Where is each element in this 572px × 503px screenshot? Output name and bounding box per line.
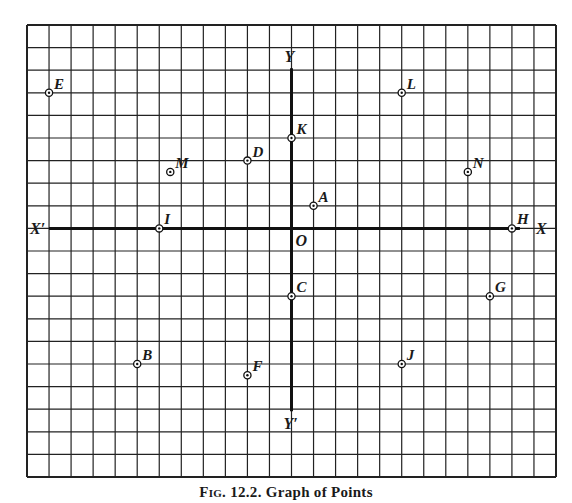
point-dot-icon: [511, 227, 513, 229]
axes: X′ X Y Y′ O: [29, 48, 547, 432]
point-label: J: [406, 347, 415, 363]
point-label: E: [53, 76, 64, 92]
point-label: D: [251, 144, 263, 160]
point-f: F: [244, 358, 263, 379]
point-label: H: [516, 211, 530, 227]
point-label: M: [174, 155, 189, 171]
point-dot-icon: [169, 171, 171, 173]
point-dot-icon: [158, 227, 160, 229]
point-dot-icon: [48, 92, 50, 94]
figure-number: Fig. 12.2.: [199, 484, 262, 500]
point-dot-icon: [401, 363, 403, 365]
point-label: F: [251, 358, 262, 374]
point-dot-icon: [246, 374, 248, 376]
point-label: B: [141, 347, 152, 363]
point-dot-icon: [290, 295, 292, 297]
point-label: K: [296, 121, 308, 137]
figure-title: Graph of Points: [266, 484, 373, 500]
y-negative-label: Y′: [284, 415, 298, 432]
point-label: L: [406, 76, 416, 92]
x-positive-label: X: [535, 220, 547, 237]
point-dot-icon: [467, 171, 469, 173]
figure-caption: Fig. 12.2. Graph of Points: [0, 484, 572, 501]
point-dot-icon: [401, 92, 403, 94]
point-dot-icon: [246, 159, 248, 161]
point-dot-icon: [136, 363, 138, 365]
point-dot-icon: [290, 137, 292, 139]
y-positive-label: Y: [285, 48, 296, 65]
coordinate-grid-diagram: X′ X Y Y′ O ABCDEFGHIJKLMN: [0, 0, 572, 503]
x-negative-label: X′: [29, 220, 45, 237]
point-label: N: [472, 155, 485, 171]
point-label: I: [163, 211, 171, 227]
point-label: C: [297, 279, 308, 295]
point-dot-icon: [312, 205, 314, 207]
point-label: A: [318, 189, 329, 205]
origin-label: O: [296, 232, 308, 249]
point-label: G: [495, 279, 506, 295]
point-dot-icon: [489, 295, 491, 297]
point-m: M: [167, 155, 190, 176]
